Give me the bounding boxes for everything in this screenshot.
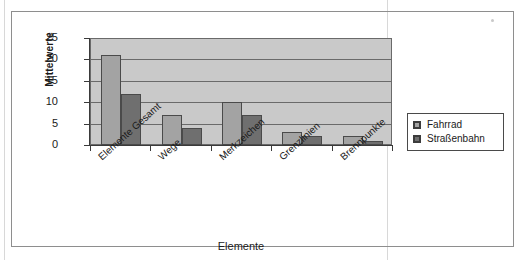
- x-axis-title: Elemente: [90, 240, 392, 252]
- x-axis-tick: [271, 145, 272, 151]
- square-swatch-icon: [413, 135, 421, 143]
- y-axis-tick-label: 25: [18, 32, 58, 43]
- x-axis-tick: [332, 145, 333, 151]
- gridline: [91, 38, 391, 39]
- legend-item-fahrrad[interactable]: Fahrrad: [413, 118, 498, 132]
- legend-item-strassenbahn[interactable]: Straßenbahn: [413, 132, 498, 146]
- bar: [182, 128, 202, 145]
- gridline: [91, 81, 391, 82]
- figure-frame: Mittelwerte 0510152025 Elemente GesamtWe…: [11, 11, 514, 247]
- x-axis-tick: [150, 145, 151, 151]
- y-axis-tick: [84, 102, 90, 103]
- bar: [101, 55, 121, 145]
- x-axis-tick: [392, 145, 393, 151]
- y-axis-tick: [84, 59, 90, 60]
- y-axis-line: [89, 38, 90, 146]
- y-axis-tick-label: 5: [18, 118, 58, 129]
- y-axis-tick-label: 10: [18, 96, 58, 107]
- y-axis-tick: [84, 38, 90, 39]
- x-axis-tick: [90, 145, 91, 151]
- legend-label: Straßenbahn: [427, 134, 485, 144]
- y-axis-tick-label: 0: [18, 139, 58, 150]
- square-swatch-icon: [413, 121, 421, 129]
- scan-artifact-line-left: [4, 0, 5, 260]
- y-axis-tick-label: 20: [18, 53, 58, 64]
- legend-label: Fahrrad: [427, 120, 462, 130]
- y-axis-tick: [84, 124, 90, 125]
- chart-legend: Fahrrad Straßenbahn: [407, 113, 504, 151]
- y-axis-tick-label: 15: [18, 75, 58, 86]
- y-axis-tick: [84, 81, 90, 82]
- x-axis-tick: [211, 145, 212, 151]
- gridline: [91, 59, 391, 60]
